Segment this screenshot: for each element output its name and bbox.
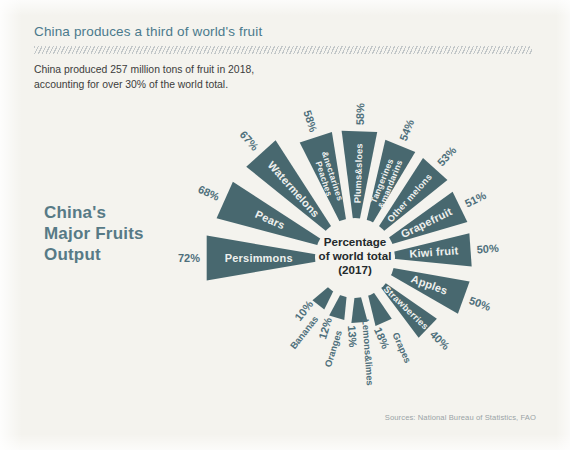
chart-block-title: China's Major Fruits Output (44, 202, 144, 265)
petal-value-label: 58% (301, 109, 319, 134)
hub-line-2: of world total (319, 249, 392, 262)
chart-petal (329, 293, 347, 320)
petal-value-label: 51% (463, 189, 488, 210)
petal-value-label: 54% (397, 117, 416, 142)
petal-value-label: 18% (372, 325, 392, 350)
infographic-page: China produces a third of world's fruit … (0, 0, 570, 450)
petal-value-label: 40% (428, 328, 452, 352)
petal-value-label: 13% (346, 325, 360, 348)
petal-value-label: 72% (178, 252, 200, 264)
petal-value-label: 50% (476, 242, 499, 256)
header: China produces a third of world's fruit … (34, 24, 534, 92)
petal-value-label: 58% (354, 103, 367, 126)
petal-name-label: Plums&sloes (352, 143, 364, 203)
hub-line-3: (2017) (338, 263, 372, 276)
source-credit: Sources: National Bureau of Statistics, … (385, 413, 536, 422)
petal-value-label: 50% (468, 294, 493, 313)
petal-name-label: Persimmons (225, 252, 293, 264)
petal-value-label: 53% (435, 144, 459, 169)
petal-value-label: 67% (237, 128, 261, 153)
subtitle: China produced 257 million tons of fruit… (34, 63, 534, 92)
petal-name-label: Grapes (390, 331, 413, 365)
page-title: China produces a third of world's fruit (34, 24, 534, 39)
hub-line-1: Percentage (324, 235, 387, 248)
petal-value-label: 68% (196, 183, 221, 203)
hatched-divider (34, 46, 532, 54)
chart-hub: Percentage of world total (2017) (315, 218, 395, 298)
